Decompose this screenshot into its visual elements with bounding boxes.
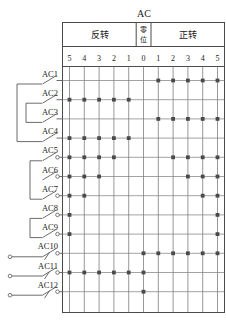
- contact-dot: [68, 194, 72, 198]
- contact-dot: [82, 175, 86, 179]
- row-label-ac3: AC3: [42, 107, 58, 117]
- row-label-ac5: AC5: [42, 145, 58, 155]
- switch-terminal: [56, 156, 60, 160]
- contact-dot: [68, 175, 72, 179]
- contact-dot: [171, 251, 175, 255]
- contact-dot: [171, 155, 175, 159]
- bus-bracket: [17, 84, 42, 142]
- bracket-wire-group: [17, 84, 42, 238]
- bus-bracket: [30, 218, 42, 237]
- column-number: 1: [127, 54, 131, 63]
- column-number: 4: [82, 54, 86, 63]
- contact-dot: [156, 117, 160, 121]
- column-number: 3: [97, 54, 101, 63]
- switch-terminal: [56, 175, 60, 179]
- column-number: 2: [171, 54, 175, 63]
- contact-dot: [142, 290, 146, 294]
- row-label-ac7: AC7: [42, 184, 58, 194]
- contact-dot: [156, 251, 160, 255]
- row-label-ac2: AC2: [42, 88, 58, 98]
- contact-dot: [216, 213, 220, 217]
- contact-dot: [142, 271, 146, 275]
- bus-bracket: [30, 161, 42, 199]
- contact-dot: [127, 271, 131, 275]
- normally-closed-bar: [45, 291, 50, 299]
- contact-dot: [201, 251, 205, 255]
- contact-dot: [97, 271, 101, 275]
- column-number: 3: [186, 54, 190, 63]
- switch-terminal-right: [56, 252, 60, 256]
- switch-terminal-right: [56, 290, 60, 294]
- contact-dot: [216, 251, 220, 255]
- row-label-ac4: AC4: [42, 126, 59, 136]
- bus-bracket: [26, 103, 42, 122]
- contact-dot: [171, 79, 175, 83]
- switch-terminal-left: [8, 293, 12, 297]
- contact-dot: [127, 98, 131, 102]
- row-label-ac10: AC10: [38, 241, 58, 251]
- contact-dot: [97, 98, 101, 102]
- contact-dot: [68, 271, 72, 275]
- contact-dot: [216, 117, 220, 121]
- row-label-ac8: AC8: [42, 203, 58, 213]
- contact-dot: [127, 136, 131, 140]
- contact-dot: [156, 79, 160, 83]
- contact-dot: [201, 117, 205, 121]
- row-label-ac9: AC9: [42, 222, 58, 232]
- column-number: 4: [201, 54, 205, 63]
- contact-dot: [82, 155, 86, 159]
- contact-dot: [216, 232, 220, 236]
- row-label-ac11: AC11: [38, 261, 58, 271]
- contact-dot: [68, 155, 72, 159]
- switch-terminal-left: [8, 255, 12, 259]
- row-label-ac1: AC1: [42, 69, 58, 79]
- switch-terminal-right: [56, 271, 60, 275]
- contact-dot: [216, 194, 220, 198]
- row-label-ac6: AC6: [42, 165, 58, 175]
- cam-switch-contact-diagram: AC 反转 零 位 正转 54321012345 AC1AC2AC3AC4AC5…: [0, 0, 226, 325]
- normally-closed-bar: [45, 272, 50, 280]
- contact-dot: [201, 79, 205, 83]
- contact-dot: [82, 98, 86, 102]
- contact-dot: [82, 136, 86, 140]
- column-number: 0: [142, 54, 146, 63]
- contact-dot: [201, 155, 205, 159]
- contact-dot: [201, 194, 205, 198]
- contact-dot: [97, 155, 101, 159]
- contact-dot: [216, 175, 220, 179]
- contact-dot: [186, 251, 190, 255]
- contact-dot: [97, 136, 101, 140]
- contact-dot: [201, 175, 205, 179]
- switch-terminal: [56, 213, 60, 217]
- contact-dot: [216, 155, 220, 159]
- contact-dot: [97, 175, 101, 179]
- column-number-row: 54321012345: [68, 54, 220, 63]
- diagram-title: AC: [137, 8, 151, 19]
- column-number: 2: [112, 54, 116, 63]
- contact-dot: [68, 136, 72, 140]
- contact-dot: [112, 271, 116, 275]
- contact-dot: [68, 98, 72, 102]
- column-gridlines: [70, 67, 218, 313]
- switch-terminal: [56, 232, 60, 236]
- contact-dot: [68, 213, 72, 217]
- contact-dot: [142, 251, 146, 255]
- contact-dot: [186, 175, 190, 179]
- contact-dot: [112, 155, 116, 159]
- switch-terminal: [56, 194, 60, 198]
- column-number: 1: [156, 54, 160, 63]
- contact-dot: [186, 79, 190, 83]
- contact-dot: [112, 136, 116, 140]
- contact-dot: [171, 117, 175, 121]
- contact-dot: [112, 98, 116, 102]
- section-label-zero-line2: 位: [140, 35, 147, 44]
- normally-closed-bar: [45, 252, 50, 259]
- switch-terminal-left: [8, 274, 12, 278]
- contact-dot: [82, 194, 86, 198]
- diagram-canvas: AC 反转 零 位 正转 54321012345 AC1AC2AC3AC4AC5…: [0, 0, 226, 325]
- contact-dot: [186, 155, 190, 159]
- contact-dot: [216, 79, 220, 83]
- contact-dot: [186, 117, 190, 121]
- column-number: 5: [216, 54, 220, 63]
- contact-dot: [82, 271, 86, 275]
